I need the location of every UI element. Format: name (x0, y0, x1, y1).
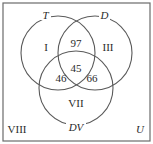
universe-label: U (136, 123, 145, 135)
set-label-dv: DV (68, 121, 85, 133)
region-d-only: III (103, 41, 114, 53)
region-t-only: I (44, 41, 48, 53)
set-label-d: D (100, 9, 109, 21)
region-t-and-dv: 46 (56, 72, 68, 84)
set-label-t: T (42, 9, 49, 21)
region-dv-only: VII (68, 97, 84, 109)
region-t-and-d: 97 (71, 37, 83, 49)
region-outside: VIII (8, 123, 27, 135)
region-d-and-dv: 66 (87, 72, 99, 84)
venn-diagram: T D DV U I III VII VIII 97 45 46 66 (0, 0, 153, 144)
region-t-d-dv: 45 (71, 62, 83, 74)
